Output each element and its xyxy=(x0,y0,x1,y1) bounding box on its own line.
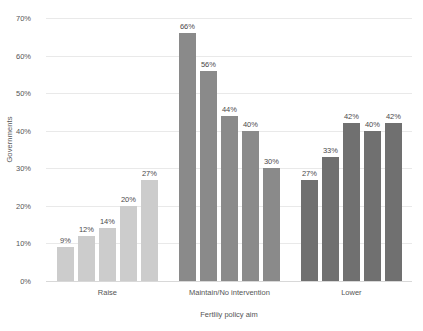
bar: 27% xyxy=(301,180,319,281)
x-axis-title: Fertliiy policy aim xyxy=(46,310,412,319)
bar: 56% xyxy=(200,71,218,281)
y-axis-tick-label: 20% xyxy=(0,201,31,210)
bar-value-label: 42% xyxy=(344,112,359,121)
bar-series-group: 9%12%14%20%27%66%56%44%40%30%27%33%42%40… xyxy=(46,18,412,281)
bar-value-label: 27% xyxy=(302,169,317,178)
bar-value-label: 12% xyxy=(79,225,94,234)
bar-value-label: 20% xyxy=(121,195,136,204)
bar: 20% xyxy=(120,206,138,281)
plot-area: 0%10%20%30%40%50%60%70% 9%12%14%20%27%66… xyxy=(46,18,412,281)
y-axis-tick-label: 10% xyxy=(0,239,31,248)
bar-value-label: 44% xyxy=(222,105,237,114)
bar-value-label: 66% xyxy=(180,22,195,31)
y-axis-tick-label: 50% xyxy=(0,89,31,98)
y-axis-tick-label: 70% xyxy=(0,14,31,23)
bar: 66% xyxy=(179,33,197,281)
bar: 42% xyxy=(343,123,361,281)
x-axis-category-label: Lower xyxy=(341,288,361,297)
y-axis-tick-label: 60% xyxy=(0,51,31,60)
bar: 12% xyxy=(78,236,96,281)
y-axis-tick-label: 0% xyxy=(0,277,31,286)
bar: 30% xyxy=(263,168,281,281)
bar-value-label: 40% xyxy=(365,120,380,129)
bar-value-label: 27% xyxy=(142,169,157,178)
axis-baseline xyxy=(46,281,412,282)
x-axis-category-label: Raise xyxy=(98,288,117,297)
x-axis-category-label: Maintain/No intervention xyxy=(189,288,270,297)
bar-value-label: 30% xyxy=(264,157,279,166)
bar-value-label: 56% xyxy=(201,60,216,69)
y-axis-tick-label: 30% xyxy=(0,164,31,173)
bar: 44% xyxy=(221,116,239,281)
bar: 42% xyxy=(385,123,403,281)
bar: 40% xyxy=(242,131,260,281)
bar-value-label: 9% xyxy=(60,236,71,245)
bar: 33% xyxy=(322,157,340,281)
bar-value-label: 42% xyxy=(386,112,401,121)
bar: 9% xyxy=(57,247,75,281)
bar-value-label: 33% xyxy=(323,146,338,155)
bar: 14% xyxy=(99,228,117,281)
bar: 40% xyxy=(364,131,382,281)
bar-chart: Governments 0%10%20%30%40%50%60%70% 9%12… xyxy=(0,0,423,331)
bar: 27% xyxy=(141,180,159,281)
y-axis-tick-label: 40% xyxy=(0,126,31,135)
bar-value-label: 14% xyxy=(100,217,115,226)
bar-value-label: 40% xyxy=(243,120,258,129)
